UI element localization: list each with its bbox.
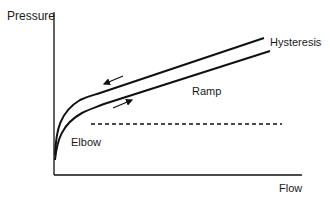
ramp-label: Ramp: [192, 85, 221, 97]
pressure-flow-diagram: [0, 0, 330, 199]
elbow-label: Elbow: [71, 136, 101, 148]
y-axis-label: Pressure: [7, 10, 55, 22]
x-axis-label: Flow: [279, 182, 302, 194]
arrow-left-icon: [104, 76, 123, 84]
hysteresis-label: Hysteresis: [270, 36, 321, 48]
